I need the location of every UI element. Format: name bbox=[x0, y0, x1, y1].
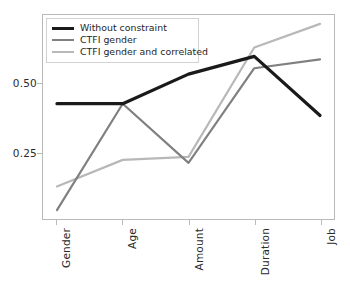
x-tick-label-gender: Gender bbox=[60, 228, 72, 268]
x-tick-label-duration: Duration bbox=[259, 228, 271, 275]
legend-swatch-ctfi-gender bbox=[52, 39, 74, 41]
legend-label-without-constraint: Without constraint bbox=[80, 22, 167, 34]
plot-area: Without constraint CTFI gender CTFI gend… bbox=[42, 14, 335, 220]
x-tick-mark-duration bbox=[255, 220, 256, 225]
x-tick-mark-gender bbox=[56, 220, 57, 225]
legend-swatch-without-constraint bbox=[52, 27, 74, 30]
legend-swatch-ctfi-gender-and-correlated bbox=[52, 51, 74, 53]
legend: Without constraint CTFI gender CTFI gend… bbox=[46, 18, 199, 63]
x-tick-label-age: Age bbox=[126, 228, 138, 249]
legend-entry-ctfi-gender-and-correlated: CTFI gender and correlated bbox=[52, 46, 193, 58]
legend-entry-ctfi-gender: CTFI gender bbox=[52, 34, 193, 46]
y-tick-label-0: 0.25 bbox=[13, 147, 37, 159]
legend-label-ctfi-gender-and-correlated: CTFI gender and correlated bbox=[80, 46, 208, 58]
y-tick-label-1: 0.50 bbox=[13, 77, 37, 89]
x-tick-mark-amount bbox=[189, 220, 190, 225]
x-tick-mark-job bbox=[321, 220, 322, 225]
chart-container: 0.25 0.50 Without constraint CTFI gender… bbox=[0, 0, 350, 282]
x-tick-label-amount: Amount bbox=[193, 228, 205, 270]
legend-label-ctfi-gender: CTFI gender bbox=[80, 34, 137, 46]
x-tick-label-job: Job bbox=[325, 228, 337, 245]
legend-entry-without-constraint: Without constraint bbox=[52, 22, 193, 34]
x-tick-mark-age bbox=[122, 220, 123, 225]
